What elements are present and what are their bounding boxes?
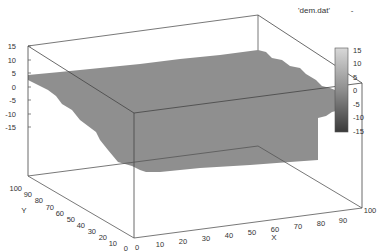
x-tick-label: 100: [364, 206, 377, 215]
legend: 'dem.dat' -: [298, 6, 354, 15]
y-tick-label: 40: [77, 221, 85, 230]
y-tick-label: 70: [46, 203, 54, 212]
colorbar-tick-label: -15: [353, 127, 364, 136]
x-axis: 0 10 20 30 40 50 60 70 80 90 100 X: [135, 206, 376, 252]
y-tick-label: 20: [99, 233, 107, 242]
colorbar-tick-label: 10: [353, 59, 361, 68]
x-tick-label: 90: [339, 216, 347, 225]
z-axis: 15 10 5 0 -5 -10 -15: [5, 42, 31, 132]
colorbar-gradient: [335, 48, 348, 132]
legend-label: 'dem.dat': [298, 6, 330, 15]
z-tick-label: 15: [8, 42, 16, 51]
z-tick-label: 5: [12, 69, 16, 78]
z-tick-label: -15: [5, 123, 16, 132]
x-tick-label: 10: [156, 240, 164, 249]
x-tick-label: 20: [179, 237, 187, 246]
z-tick-label: -5: [9, 96, 16, 105]
y-tick-label: 100: [9, 184, 22, 193]
z-tick-label: 0: [12, 83, 16, 92]
y-tick-label: 10: [109, 239, 117, 248]
y-tick-label: 30: [88, 227, 96, 236]
colorbar-tick-label: 0: [353, 86, 357, 95]
y-tick-label: 90: [24, 190, 32, 199]
x-tick-label: 50: [248, 228, 256, 237]
x-tick-label: 0: [135, 243, 139, 252]
surface: [28, 50, 346, 172]
y-tick-label: 60: [56, 209, 64, 218]
legend-marker: -: [351, 6, 354, 15]
surface-plot: 15 10 5 0 -5 -10 -15 100 90 80 70 60 50 …: [0, 0, 382, 252]
x-tick-label: 80: [317, 219, 325, 228]
z-tick-label: 10: [8, 56, 16, 65]
surface-fill: [28, 50, 346, 172]
y-axis: 100 90 80 70 60 50 40 30 20 10 0 Y: [9, 184, 128, 252]
colorbar-tick-label: 5: [353, 73, 357, 82]
x-tick-label: 40: [225, 231, 233, 240]
x-tick-label: 30: [202, 234, 210, 243]
y-tick-label: 80: [35, 196, 43, 205]
y-tick-label: 0: [124, 244, 128, 252]
x-tick-label: 70: [294, 222, 302, 231]
colorbar-tick-label: -5: [353, 100, 360, 109]
y-tick-label: 50: [67, 215, 75, 224]
colorbox: 15 10 5 0 -5 -10 -15: [335, 46, 364, 136]
y-axis-title: Y: [21, 206, 27, 215]
x-axis-title: X: [271, 233, 277, 242]
colorbar-tick-label: -10: [353, 113, 364, 122]
z-tick-label: -10: [5, 110, 16, 119]
colorbar-tick-label: 15: [353, 46, 361, 55]
